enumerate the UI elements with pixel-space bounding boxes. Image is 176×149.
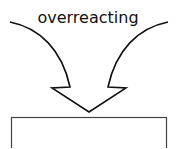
diagram-canvas: overreacting [0, 0, 176, 148]
converging-arrows-icon [0, 0, 176, 148]
left-arrow-curve [10, 22, 168, 112]
empty-box [12, 118, 167, 149]
